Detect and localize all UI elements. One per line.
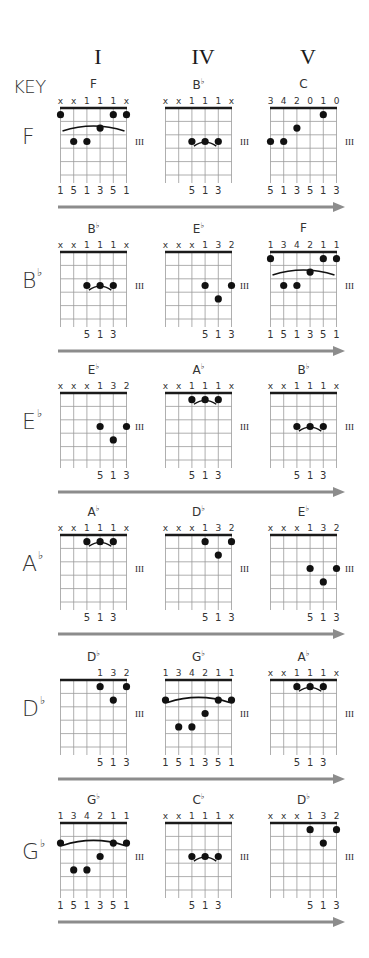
string-indicator: 1	[202, 240, 208, 250]
finger-dot	[83, 866, 90, 873]
interval-label: 3	[97, 185, 103, 196]
finger-dot	[228, 538, 235, 545]
finger-dot	[228, 282, 235, 289]
string-indicator: 4	[281, 96, 287, 106]
chord-diagram: xxx153123III	[163, 523, 249, 623]
chord-diagram: 113541231511III	[162, 668, 249, 768]
string-indicator: 2	[334, 811, 340, 821]
interval-label: 3	[202, 757, 208, 768]
finger-dot	[57, 840, 64, 847]
chord-diagram: xxx153123III	[268, 523, 354, 623]
finger-dot	[110, 538, 117, 545]
finger-dot	[202, 710, 209, 717]
string-indicator: x	[71, 381, 77, 391]
string-indicator: 0	[334, 96, 340, 106]
finger-dot	[110, 436, 117, 443]
string-indicator: 2	[97, 811, 103, 821]
string-indicator: 1	[189, 811, 195, 821]
string-indicator: 3	[320, 811, 326, 821]
string-indicator: x	[176, 96, 182, 106]
interval-label: 5	[294, 470, 300, 481]
string-indicator: 1	[110, 523, 116, 533]
string-indicator: 2	[124, 381, 130, 391]
finger-dot	[202, 538, 209, 545]
position-marker: III	[135, 137, 144, 147]
string-indicator: 1	[163, 668, 169, 678]
string-indicator: 1	[215, 668, 221, 678]
interval-label: 3	[320, 757, 326, 768]
interval-label: 3	[307, 329, 313, 340]
string-indicator: x	[334, 668, 340, 678]
chord-diagram: 354123051103III	[267, 96, 354, 196]
string-indicator: 2	[124, 668, 130, 678]
finger-dot	[215, 552, 222, 559]
string-indicator: 1	[268, 240, 274, 250]
interval-label: 1	[84, 185, 90, 196]
string-indicator: 2	[334, 523, 340, 533]
interval-label: 3	[215, 185, 221, 196]
interval-label: 5	[189, 470, 195, 481]
string-indicator: x	[163, 523, 169, 533]
finger-dot	[320, 578, 327, 585]
chord-diagram: xx151113xIII	[268, 381, 354, 481]
interval-label: 3	[110, 612, 116, 623]
string-indicator: x	[124, 96, 130, 106]
interval-label: 1	[307, 470, 313, 481]
string-indicator: 1	[215, 96, 221, 106]
interval-label: 5	[189, 900, 195, 911]
finger-dot	[175, 723, 182, 730]
finger-dot	[320, 255, 327, 262]
string-indicator: 1	[307, 523, 313, 533]
finger-dot	[215, 697, 222, 704]
string-indicator: x	[229, 381, 235, 391]
finger-dot	[215, 138, 222, 145]
position-marker: III	[345, 564, 354, 574]
string-indicator: 3	[176, 668, 182, 678]
finger-dot	[202, 282, 209, 289]
string-indicator: x	[176, 523, 182, 533]
interval-label: 1	[57, 900, 63, 911]
position-marker: III	[345, 137, 354, 147]
position-marker: III	[345, 422, 354, 432]
finger-dot	[320, 683, 327, 690]
interval-label: 3	[228, 329, 234, 340]
finger-dot	[97, 125, 104, 132]
interval-label: 1	[123, 900, 129, 911]
string-indicator: 2	[229, 240, 235, 250]
interval-label: 3	[333, 900, 339, 911]
interval-label: 5	[307, 612, 313, 623]
string-indicator: x	[176, 811, 182, 821]
interval-label: 3	[228, 612, 234, 623]
string-indicator: 1	[84, 240, 90, 250]
string-indicator: x	[281, 811, 287, 821]
chord-diagram: 113541231511III	[267, 240, 354, 340]
interval-label: 1	[97, 612, 103, 623]
string-indicator: x	[71, 240, 77, 250]
string-indicator: x	[58, 240, 64, 250]
interval-label: 3	[123, 470, 129, 481]
string-indicator: x	[176, 240, 182, 250]
finger-dot	[320, 423, 327, 430]
finger-dot	[293, 423, 300, 430]
interval-label: 1	[320, 612, 326, 623]
finger-dot	[267, 255, 274, 262]
string-indicator: 3	[110, 668, 116, 678]
string-indicator: 3	[110, 381, 116, 391]
string-indicator: x	[163, 811, 169, 821]
string-indicator: 4	[84, 811, 90, 821]
string-indicator: x	[281, 523, 287, 533]
string-indicator: 4	[294, 240, 300, 250]
interval-label: 1	[57, 185, 63, 196]
string-indicator: 1	[84, 96, 90, 106]
interval-label: 5	[307, 185, 313, 196]
interval-label: 5	[281, 329, 287, 340]
string-indicator: 1	[110, 240, 116, 250]
interval-label: 5	[189, 185, 195, 196]
interval-label: 3	[215, 470, 221, 481]
string-indicator: 1	[202, 381, 208, 391]
finger-dot	[188, 138, 195, 145]
arrow-head-icon	[333, 346, 345, 356]
string-indicator: 1	[202, 811, 208, 821]
string-indicator: x	[163, 96, 169, 106]
string-indicator: 3	[268, 96, 274, 106]
